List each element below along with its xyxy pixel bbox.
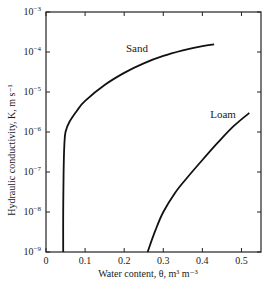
x-tick-label: 0.3 xyxy=(157,255,170,266)
sand-curve xyxy=(63,44,214,252)
y-tick-label: 10−9 xyxy=(24,245,42,257)
loam-label: Loam xyxy=(210,108,236,120)
x-tick-label: 0 xyxy=(44,255,49,266)
y-tick-label: 10−8 xyxy=(24,205,42,217)
y-tick-label: 10−6 xyxy=(24,125,42,137)
y-tick-label: 10−7 xyxy=(24,165,42,177)
loam-curve xyxy=(148,113,250,252)
x-tick-label: 0.5 xyxy=(235,255,248,266)
y-tick-label: 10−5 xyxy=(24,85,42,97)
series-lines xyxy=(63,44,249,252)
y-axis-title: Hydraulic conductivity, K, m s⁻¹ xyxy=(6,84,17,216)
y-tick-label: 10−3 xyxy=(24,5,42,17)
x-tick-label: 0.4 xyxy=(196,255,209,266)
x-axis-title: Water content, θ, m³ m⁻³ xyxy=(98,268,198,279)
sand-label: Sand xyxy=(126,42,149,54)
chart: 00.10.20.30.40.5 10−310−410−510−610−710−… xyxy=(0,0,265,283)
x-tick-label: 0.1 xyxy=(79,255,92,266)
y-tick-label: 10−4 xyxy=(24,45,42,57)
x-tick-label: 0.2 xyxy=(118,255,131,266)
